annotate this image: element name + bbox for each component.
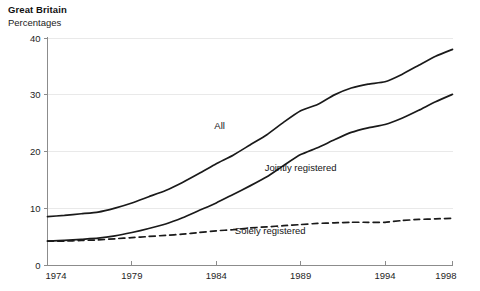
series-label-jointly-registered: Jointly registered [265,162,337,173]
y-tickmarks-group [44,38,48,266]
series-labels-group: AllJointly registeredSolely registered [214,120,336,236]
x-tick-labels-group: 197419791984198919941998 [46,270,457,281]
gridlines-group [48,38,453,209]
series-label-all: All [214,120,225,131]
y-tick-label-30: 30 [30,89,41,100]
series-label-solely-registered: Solely registered [235,225,306,236]
chart-figure: Great Britain Percentages 010203040 1974… [0,0,480,291]
x-tick-label-1989: 1989 [290,270,311,281]
x-tick-label-1974: 1974 [46,270,67,281]
y-tick-labels-group: 010203040 [30,33,41,272]
y-tick-label-10: 10 [30,203,41,214]
y-tick-label-20: 20 [30,146,41,157]
y-tick-label-0: 0 [35,260,40,271]
series-line-jointly-registered [48,94,453,241]
x-tick-label-1994: 1994 [374,270,395,281]
line-chart-plot: 010203040 197419791984198919941998 AllJo… [0,0,480,291]
x-tick-label-1998: 1998 [435,270,456,281]
series-line-all [48,49,453,216]
x-tick-label-1979: 1979 [121,270,142,281]
x-tick-label-1984: 1984 [206,270,227,281]
data-series-group [48,49,453,241]
y-tick-label-40: 40 [30,33,41,44]
x-tickmarks-group [48,261,453,266]
